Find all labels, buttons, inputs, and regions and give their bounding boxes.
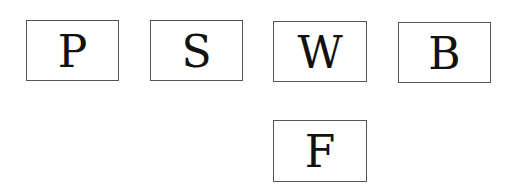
box-label: F (305, 130, 336, 174)
box-f: F (273, 120, 367, 182)
box-s: S (150, 20, 243, 81)
box-label: W (297, 31, 342, 75)
box-b: B (398, 22, 491, 83)
box-label: S (181, 30, 211, 74)
box-label: P (58, 30, 88, 74)
box-p: P (26, 20, 119, 81)
box-w: W (273, 21, 367, 82)
box-label: B (428, 32, 460, 76)
